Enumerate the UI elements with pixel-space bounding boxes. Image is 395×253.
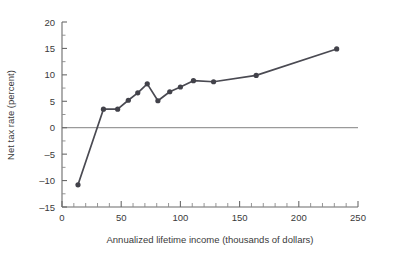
- y-axis-title: Net tax rate (percent): [5, 70, 16, 160]
- y-tick-label: 0: [50, 122, 55, 133]
- x-axis-title: Annualized lifetime income (thousands of…: [107, 234, 314, 245]
- data-point-marker: [126, 98, 131, 103]
- data-point-marker: [334, 46, 339, 51]
- data-point-marker: [178, 84, 183, 89]
- y-tick-label: 15: [44, 43, 55, 54]
- y-tick-label: –10: [39, 175, 55, 186]
- x-tick-label: 200: [291, 212, 307, 223]
- x-tick-label: 0: [59, 212, 64, 223]
- x-tick-label: 150: [232, 212, 248, 223]
- x-tick-label: 100: [172, 212, 188, 223]
- data-point-marker: [115, 107, 120, 112]
- data-point-marker: [167, 89, 172, 94]
- y-tick-label: –15: [39, 202, 55, 213]
- x-tick-label: 250: [350, 212, 366, 223]
- data-point-marker: [145, 81, 150, 86]
- y-tick-label: 10: [44, 69, 55, 80]
- data-point-marker: [155, 98, 160, 103]
- data-point-marker: [211, 79, 216, 84]
- y-tick-label: –5: [44, 149, 55, 160]
- chart-figure: –15–10–505101520 050100150200250 Annuali…: [0, 0, 395, 253]
- data-point-marker: [191, 78, 196, 83]
- y-tick-label: 20: [44, 17, 55, 28]
- data-point-marker: [254, 73, 259, 78]
- data-point-marker: [135, 90, 140, 95]
- data-point-marker: [75, 182, 80, 187]
- y-tick-label: 5: [50, 96, 55, 107]
- data-point-marker: [101, 107, 106, 112]
- net-tax-rate-line-chart: –15–10–505101520 050100150200250 Annuali…: [0, 0, 395, 253]
- x-tick-label: 50: [116, 212, 127, 223]
